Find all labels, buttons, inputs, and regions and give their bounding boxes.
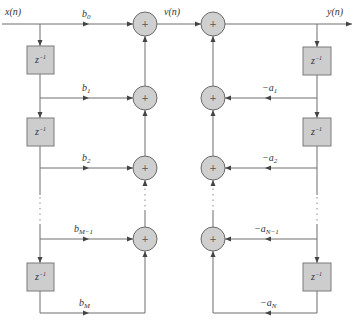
- arrow-up-icon: [211, 36, 216, 42]
- adder-fb-n1: +: [201, 227, 225, 251]
- adder-ff-1: +: [133, 86, 157, 110]
- coef-bm-label: bM: [79, 297, 91, 310]
- arrow-down-icon: [38, 257, 43, 263]
- svg-text:+: +: [141, 234, 149, 244]
- adder-ff-0: +: [133, 12, 157, 36]
- delay-block-left-1: z−1: [27, 46, 54, 74]
- arrow-right-icon: [127, 96, 133, 101]
- arrow-left-icon: [225, 237, 231, 242]
- adder-ff-2: +: [133, 156, 157, 180]
- gain-arrow-icon: [83, 166, 89, 171]
- arrow-right-icon: [127, 237, 133, 242]
- coef-b1-label: b1: [82, 82, 91, 95]
- delay-block-right-n: z−1: [303, 263, 331, 291]
- svg-text:+: +: [141, 163, 149, 173]
- output-signal-label: y(n): [326, 6, 344, 18]
- svg-text:+: +: [209, 19, 217, 29]
- gain-arrow-icon: [265, 311, 271, 316]
- arrow-left-icon: [225, 166, 231, 171]
- arrow-up-icon: [143, 180, 148, 186]
- gain-arrow-icon: [265, 237, 271, 242]
- arrow-left-icon: [225, 96, 231, 101]
- coef-b2-label: b2: [82, 152, 91, 165]
- gain-arrow-icon: [265, 96, 271, 101]
- gain-arrow-icon: [83, 22, 89, 27]
- svg-text:+: +: [209, 93, 217, 103]
- adder-fb-2: +: [201, 156, 225, 180]
- arrow-right-icon: [127, 22, 133, 27]
- gain-arrow-icon: [83, 311, 89, 316]
- feedforward-section: z−1 z−1 z−1: [2, 6, 157, 316]
- arrow-up-icon: [143, 251, 148, 257]
- arrow-up-icon: [211, 110, 216, 116]
- adder-ff-m1: +: [133, 227, 157, 251]
- adder-fb-0: +: [201, 12, 225, 36]
- arrow-up-icon: [211, 251, 216, 257]
- gain-arrow-icon: [83, 96, 89, 101]
- arrow-down-icon: [38, 112, 43, 118]
- coef-a2-label: −a2: [262, 152, 278, 165]
- delay-block-left-m: z−1: [27, 263, 54, 291]
- adder-fb-1: +: [201, 86, 225, 110]
- arrow-down-icon: [38, 40, 43, 46]
- svg-text:+: +: [141, 19, 149, 29]
- arrow-down-icon: [315, 112, 320, 118]
- coef-b0-label: b0: [82, 8, 91, 21]
- feedback-section: z−1 z−1 z−1: [201, 6, 352, 316]
- delay-block-right-2: z−1: [303, 118, 331, 146]
- coef-an-label: −aN: [260, 297, 277, 310]
- arrow-up-icon: [211, 180, 216, 186]
- gain-arrow-icon: [83, 237, 89, 242]
- arrow-right-icon: [346, 22, 352, 27]
- arrow-up-icon: [143, 110, 148, 116]
- arrow-up-icon: [143, 36, 148, 42]
- coef-an1-label: −aN−1: [254, 223, 279, 236]
- delay-block-left-2: z−1: [27, 118, 54, 146]
- arrow-down-icon: [315, 257, 320, 263]
- svg-text:+: +: [141, 93, 149, 103]
- arrow-right-icon: [127, 166, 133, 171]
- arrow-down-icon: [315, 41, 320, 47]
- coef-bm1-label: bM−1: [74, 223, 93, 236]
- gain-arrow-icon: [265, 166, 271, 171]
- svg-text:+: +: [209, 234, 217, 244]
- coef-a1-label: −a1: [262, 82, 277, 95]
- svg-text:+: +: [209, 163, 217, 173]
- arrow-right-icon: [195, 22, 201, 27]
- delay-block-right-1: z−1: [303, 47, 331, 75]
- intermediate-signal-label: v(n): [164, 6, 181, 18]
- input-signal-label: x(n): [4, 6, 22, 18]
- direct-form-1-diagram: z−1 z−1 z−1: [0, 0, 355, 324]
